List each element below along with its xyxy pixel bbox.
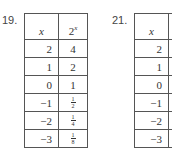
cell-y — [169, 130, 173, 148]
cell-x: 0 — [135, 76, 169, 94]
cell-x: 0 — [25, 76, 59, 94]
column-header-x: x — [135, 14, 169, 40]
problem-number: 21. — [112, 14, 127, 26]
cell-x: −1 — [135, 94, 169, 112]
cell-x: −2 — [25, 112, 59, 130]
cell-y — [169, 112, 173, 130]
value-table: x 2 1 0 −1 −2 −3 — [134, 13, 172, 148]
cell-y — [169, 94, 173, 112]
cell-x: −3 — [135, 130, 169, 148]
cell-y: 14 — [59, 112, 88, 130]
cell-x: 2 — [25, 40, 59, 58]
cell-x: 1 — [135, 58, 169, 76]
cell-y: 2 — [59, 58, 88, 76]
cell-y — [169, 58, 173, 76]
column-header-fx — [169, 14, 173, 40]
cell-y: 12 — [59, 94, 88, 112]
column-header-x: x — [25, 14, 59, 40]
cell-y: 4 — [59, 40, 88, 58]
cell-y: 18 — [59, 130, 88, 148]
cell-x: −3 — [25, 130, 59, 148]
cell-x: 1 — [25, 58, 59, 76]
problem-number: 19. — [2, 14, 17, 26]
cell-x: −2 — [135, 112, 169, 130]
cell-x: 2 — [135, 40, 169, 58]
cell-y — [169, 76, 173, 94]
cell-y: 1 — [59, 76, 88, 94]
column-header-fx: 2x — [59, 14, 88, 40]
value-table: x 2x 24 12 01 −112 −214 −318 — [24, 13, 88, 148]
cell-y — [169, 40, 173, 58]
cell-x: −1 — [25, 94, 59, 112]
